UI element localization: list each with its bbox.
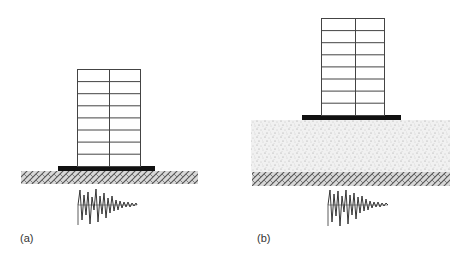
seismogram-icon xyxy=(78,189,137,225)
seismogram-icon xyxy=(328,190,388,226)
soil-layer xyxy=(251,120,450,172)
panel-label-a: (a) xyxy=(20,232,33,244)
building-frame xyxy=(322,19,385,116)
bedrock-layer xyxy=(21,171,198,184)
soil-structure-diagram xyxy=(0,0,466,256)
panel-b xyxy=(251,19,450,227)
panel-a xyxy=(21,70,198,226)
bedrock-layer xyxy=(252,172,450,186)
panel-label-b: (b) xyxy=(257,232,270,244)
building-frame xyxy=(78,70,141,167)
